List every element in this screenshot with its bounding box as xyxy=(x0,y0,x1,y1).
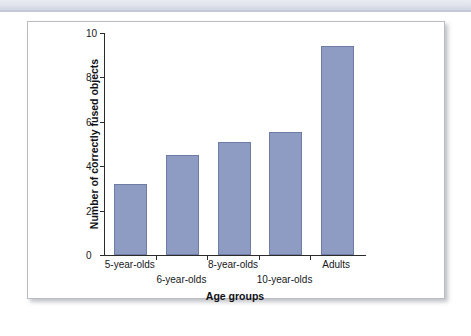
bar xyxy=(114,184,147,255)
y-axis-tick-label: 8 xyxy=(86,72,95,83)
bar xyxy=(218,142,251,255)
x-axis-tick-label: 6-year-olds xyxy=(156,274,206,285)
bar xyxy=(269,132,302,255)
y-axis-tick-label: 0 xyxy=(86,250,95,261)
x-axis-tick-label: Adults xyxy=(322,259,350,270)
y-axis-tick-label: 4 xyxy=(86,161,95,172)
x-axis-tick-label: 8-year-olds xyxy=(208,259,258,270)
x-axis-tick-label: 5-year-olds xyxy=(105,259,155,270)
figure-page: Number of correctly fused objects 024681… xyxy=(0,0,471,336)
x-axis-tick xyxy=(310,255,311,260)
y-axis-tick xyxy=(100,255,105,256)
x-axis-tick-label: 10-year-olds xyxy=(257,274,313,285)
page-top-band xyxy=(0,0,471,10)
x-axis-tick xyxy=(156,255,157,260)
page-top-band-edge xyxy=(0,10,471,12)
plot-area: 0246810 xyxy=(104,33,362,255)
x-axis-title: Age groups xyxy=(104,290,366,302)
y-axis-title: Number of correctly fused objects xyxy=(88,33,102,255)
bar xyxy=(166,155,199,255)
x-axis-tick xyxy=(259,255,260,260)
y-axis-tick-label: 6 xyxy=(86,116,95,127)
y-axis-tick-label: 2 xyxy=(86,205,95,216)
bar xyxy=(321,46,354,255)
x-axis-line xyxy=(104,255,366,256)
bars-layer xyxy=(105,33,363,255)
y-axis-tick-label: 10 xyxy=(86,28,95,39)
